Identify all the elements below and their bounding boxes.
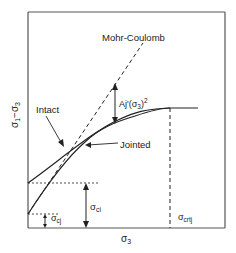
x-axis-label: σ3 <box>121 233 131 245</box>
jointed-curve <box>28 108 170 214</box>
jointed-label: Jointed <box>120 139 151 150</box>
sigma-cj-label: σcj <box>51 213 61 225</box>
jointed-leader <box>85 142 118 148</box>
aj-arrow <box>112 83 118 124</box>
y-axis-label: σ1−σ3 <box>9 102 21 128</box>
sigma-crtj-label: σcrtj <box>178 212 192 224</box>
plot-frame <box>28 12 225 228</box>
mohr-coulomb-label: Mohr-Coulomb <box>102 32 165 43</box>
sigma-ci-label: σci <box>90 201 101 213</box>
aj-label: Aj'(σ3)2 <box>119 97 148 110</box>
strength-envelope-diagram: Mohr-Coulomb Intact Jointed Aj'(σ3)2 σci… <box>0 0 236 253</box>
sigma-ci-arrow <box>83 183 89 228</box>
intact-label: Intact <box>36 104 60 115</box>
sigma-cj-arrow <box>43 214 47 228</box>
intact-leader <box>46 116 64 147</box>
